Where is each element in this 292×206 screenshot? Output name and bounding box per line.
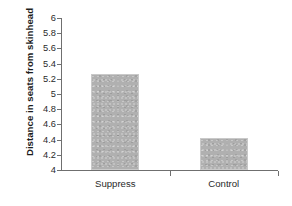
- y-axis-tick-label: 5.4: [22, 59, 56, 69]
- y-axis-tick-mark: [57, 64, 62, 65]
- y-axis-tick-mark: [57, 155, 62, 156]
- y-axis-tick-mark: [57, 94, 62, 95]
- y-axis-tick-mark: [57, 109, 62, 110]
- bar: [200, 138, 248, 170]
- y-axis-tick-label: 4.8: [22, 104, 56, 114]
- y-axis-tick-label: 6: [22, 13, 56, 23]
- y-axis-tick-mark: [57, 124, 62, 125]
- y-axis-tick-label: 5.6: [22, 43, 56, 53]
- y-axis-tick-label: 5.8: [22, 28, 56, 38]
- y-axis-tick-label: 4.6: [22, 119, 56, 129]
- bar: [91, 74, 139, 170]
- x-axis-category-label: Control: [170, 178, 279, 190]
- y-axis-tick-mark: [57, 18, 62, 19]
- y-axis-tick-label: 4.2: [22, 150, 56, 160]
- bar-chart-figure: Distance in seats from skinhead 65.85.65…: [0, 0, 292, 206]
- y-axis-tick-mark: [57, 48, 62, 49]
- x-axis-tick-mark: [170, 171, 171, 176]
- y-axis-tick-mark: [57, 79, 62, 80]
- x-axis-tick-mark: [278, 171, 279, 176]
- x-axis-category-label: Suppress: [61, 178, 170, 190]
- y-axis-tick-label: 5: [22, 89, 56, 99]
- y-axis-tick-mark: [57, 33, 62, 34]
- y-axis-tick-label: 4.4: [22, 135, 56, 145]
- y-axis-tick-label: 4: [22, 165, 56, 175]
- y-axis-tick-labels: 65.85.65.45.254.84.64.44.24: [22, 0, 56, 206]
- y-axis-tick-mark: [57, 140, 62, 141]
- y-axis-tick-mark: [57, 170, 62, 171]
- y-axis-tick-label: 5.2: [22, 74, 56, 84]
